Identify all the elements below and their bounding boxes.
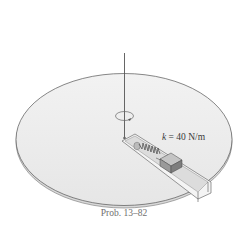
diagram-canvas: k = 40 N/m Prob. 13–82 bbox=[0, 0, 248, 239]
figure-caption: Prob. 13–82 bbox=[101, 208, 148, 218]
spring-constant-value: = 40 N/m bbox=[166, 132, 205, 142]
spring-constant-label: k = 40 N/m bbox=[162, 132, 206, 142]
